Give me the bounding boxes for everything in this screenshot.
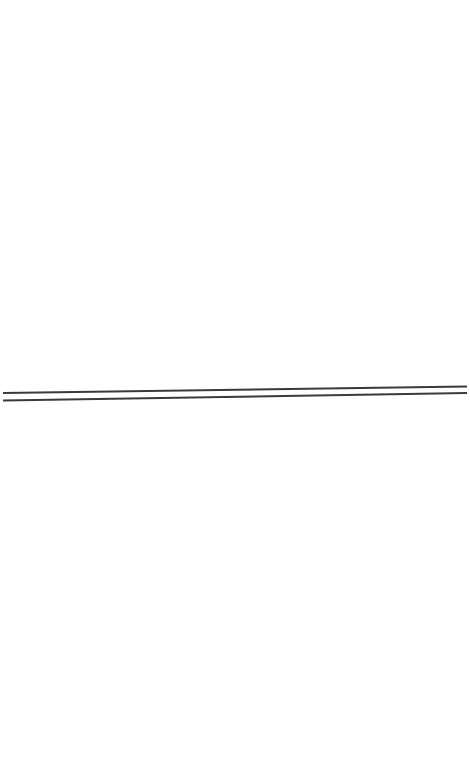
- blank-canvas: [0, 0, 470, 763]
- upper-line: [3, 387, 467, 394]
- lower-line: [3, 393, 467, 401]
- double-rule: [0, 0, 470, 763]
